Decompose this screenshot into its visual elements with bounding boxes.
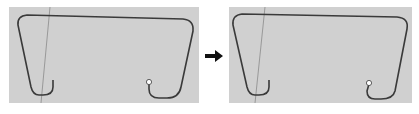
curve-path [233, 14, 407, 99]
curve-before-drawing [9, 7, 199, 103]
curve-path [18, 15, 193, 98]
endpoint-marker [366, 80, 371, 85]
panel-before [9, 7, 199, 103]
right-arrow-icon [203, 49, 225, 63]
endpoint-marker [146, 79, 151, 84]
curve-after-drawing [229, 7, 412, 103]
panel-after [229, 7, 412, 103]
guide-line [255, 7, 265, 103]
guide-line [41, 7, 50, 103]
